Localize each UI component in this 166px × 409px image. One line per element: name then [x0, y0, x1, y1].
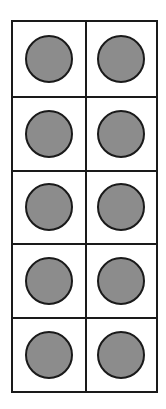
counter-circle-icon	[97, 331, 145, 379]
frame-cell	[85, 170, 157, 244]
frame-cell	[13, 317, 85, 391]
counter-circle-icon	[25, 110, 73, 158]
frame-cell	[85, 243, 157, 317]
counter-circle-icon	[25, 257, 73, 305]
counter-circle-icon	[97, 35, 145, 83]
counter-circle-icon	[25, 183, 73, 231]
counter-circle-icon	[97, 183, 145, 231]
frame-cell	[85, 317, 157, 391]
counter-circle-icon	[25, 35, 73, 83]
frame-cell	[13, 170, 85, 244]
ten-frame	[11, 20, 158, 393]
frame-cell	[85, 22, 157, 96]
counter-circle-icon	[97, 110, 145, 158]
counter-circle-icon	[25, 331, 73, 379]
frame-cell	[13, 22, 85, 96]
frame-cell	[85, 96, 157, 170]
frame-cell	[13, 243, 85, 317]
counter-circle-icon	[97, 257, 145, 305]
frame-cell	[13, 96, 85, 170]
